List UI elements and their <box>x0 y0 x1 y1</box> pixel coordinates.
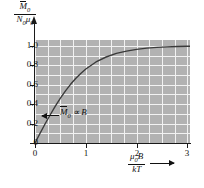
x-axis-direction-arrow-icon <box>150 163 174 164</box>
y-axis-numerator-symbol: M <box>20 1 28 11</box>
y-axis-tick-label: 1.0 <box>27 41 38 50</box>
annotation-arrow-icon <box>42 115 59 116</box>
x-axis-tick-label: 0 <box>28 149 42 158</box>
y-axis-title: M0 N0μ0 <box>2 2 48 26</box>
plot-area <box>35 40 190 143</box>
annotation-symbol: M <box>60 107 68 117</box>
x-axis-title: μ0B kT <box>128 152 174 174</box>
x-axis-numerator-b: B <box>138 151 144 161</box>
y-axis-numerator-subscript: 0 <box>27 6 30 13</box>
x-axis-line <box>35 143 191 144</box>
x-axis-title-denominator: kT <box>128 164 145 174</box>
annotation-relation: ∝ <box>73 107 79 117</box>
annotation-linear-regime: M0 ∝ B <box>60 107 87 119</box>
y-axis-tick-label: 0.6 <box>27 80 38 89</box>
y-axis-tick-label: 0.2 <box>27 119 38 128</box>
x-axis-title-numerator: μ0B <box>128 152 145 164</box>
y-axis-title-numerator: M0 <box>14 2 35 14</box>
langevin-curve <box>35 46 190 143</box>
y-axis-tick-label: 0.4 <box>27 99 38 108</box>
x-axis-tick-label: 3 <box>180 149 194 158</box>
x-axis-tick-label: 1 <box>79 149 93 158</box>
y-axis-tick-label: 0.8 <box>27 60 38 69</box>
annotation-field: B <box>81 107 87 117</box>
x-axis-title-fraction: μ0B kT <box>128 152 145 174</box>
curve-layer <box>35 40 190 143</box>
figure-magnetization-vs-field: M0 N0μ0 M0 ∝ B 00.20.40.60.81.00123 μ0B … <box>0 0 204 188</box>
